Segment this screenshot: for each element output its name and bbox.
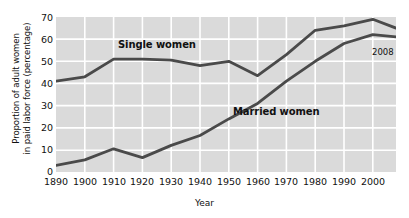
series-line-married-women: [56, 35, 396, 166]
series-line-single-women: [56, 19, 396, 81]
series-label-single-women: Single women: [118, 39, 196, 50]
y-tick-label: 10: [35, 145, 53, 155]
x-tick-label: 2000: [356, 176, 390, 187]
plot-svg: [56, 17, 396, 172]
y-tick-label: 50: [35, 57, 53, 67]
cropped-chart-title: [0, 0, 409, 5]
y-axis-title-line-1: Proportion of adult women: [11, 6, 22, 172]
y-tick-label: 40: [35, 79, 53, 89]
labor-force-participation-chart: Proportion of adult women in paid labor …: [0, 0, 409, 218]
x-axis-title: Year: [0, 198, 409, 208]
y-tick-label: 60: [35, 35, 53, 45]
y-tick-label: 70: [35, 13, 53, 23]
y-tick-label: 30: [35, 101, 53, 111]
series-label-married-women: Married women: [233, 106, 320, 117]
plot-area: Single women Married women 2008: [56, 17, 396, 172]
end-year-annotation: 2008: [372, 47, 394, 57]
gridlines: [56, 17, 396, 172]
x-axis-tick-labels: 1890 1900 1910 1920 1930 1940 1950 1960 …: [0, 176, 409, 190]
y-axis-title: Proportion of adult women in paid labor …: [11, 6, 32, 172]
y-tick-label: 20: [35, 123, 53, 133]
y-axis-title-line-2: in paid labor force (percentage): [21, 6, 32, 172]
